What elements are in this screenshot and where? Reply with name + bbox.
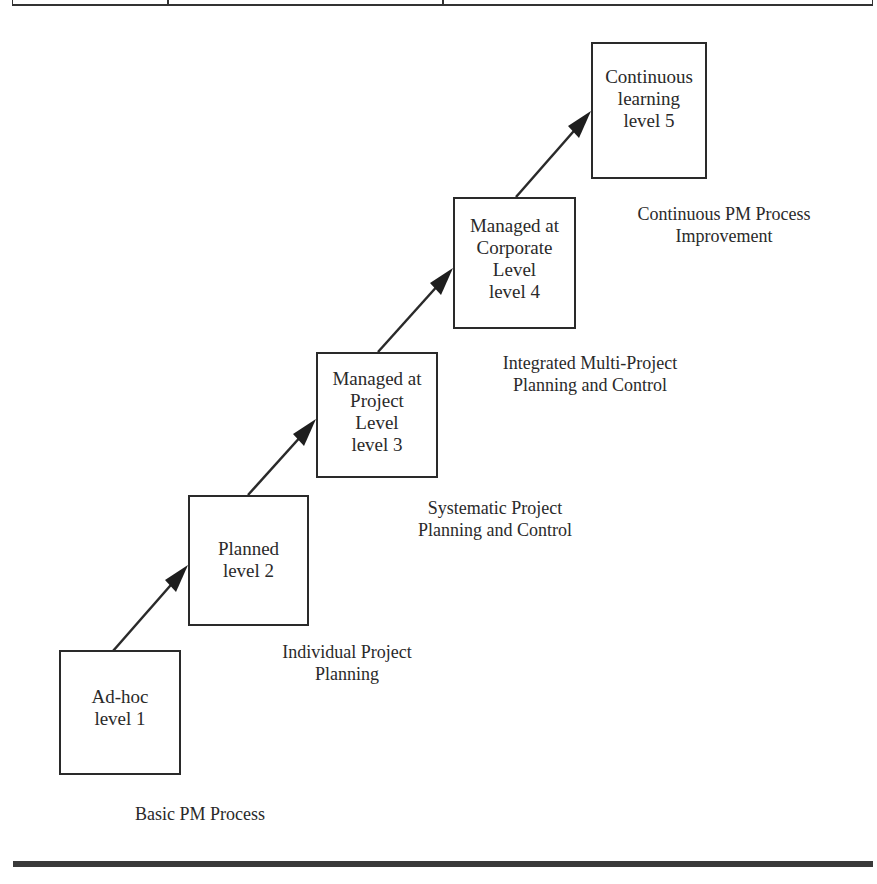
level-2-title: Planned [218, 538, 279, 560]
level-4-caption: Integrated Multi-Project Planning and Co… [470, 352, 710, 396]
level-1-title: Ad-hoc [92, 686, 149, 708]
level-3-title-line3: Level [355, 412, 398, 434]
level-5-title-line1: Continuous [605, 66, 693, 88]
level-2-caption: Individual Project Planning [247, 641, 447, 685]
level-3-box: Managed at Project Level level 3 [316, 352, 438, 478]
level-4-title-line1: Managed at [470, 215, 559, 237]
level-1-label: level 1 [94, 708, 145, 730]
level-2-label: level 2 [223, 560, 274, 582]
level-1-caption: Basic PM Process [110, 803, 290, 825]
bottom-rule [13, 861, 873, 867]
level-5-label: level 5 [623, 110, 674, 132]
level-5-title-line2: learning [618, 88, 680, 110]
level-3-title-line1: Managed at [332, 368, 421, 390]
level-2-box: Planned level 2 [188, 495, 309, 626]
level-3-label: level 3 [351, 434, 402, 456]
level-4-title-line2: Corporate [477, 237, 553, 259]
level-1-box: Ad-hoc level 1 [59, 650, 181, 775]
level-5-box: Continuous learning level 5 [591, 42, 707, 179]
level-4-box: Managed at Corporate Level level 4 [453, 197, 576, 329]
level-5-caption: Continuous PM Process Improvement [604, 203, 844, 247]
level-3-caption: Systematic Project Planning and Control [380, 497, 610, 541]
level-4-title-line3: Level [493, 259, 536, 281]
level-3-title-line2: Project [350, 390, 404, 412]
level-4-label: level 4 [489, 281, 540, 303]
